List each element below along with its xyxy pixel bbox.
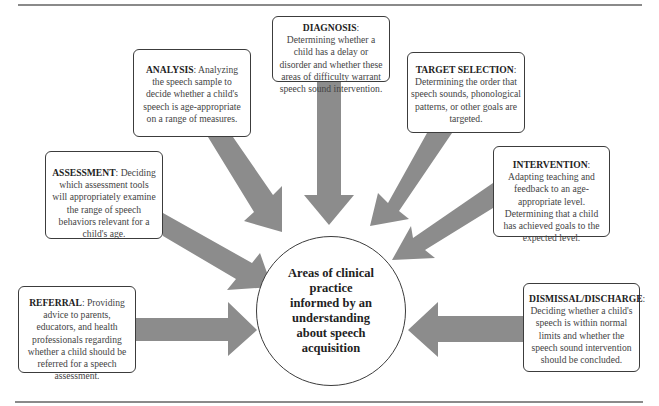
node-text: Adapting teaching and feedback to an age… [504, 171, 600, 243]
arrow-target-selection [370, 133, 452, 226]
arrow-dismissal [408, 302, 523, 357]
node-analysis: ANALYSIS: Analyzing the speech sample to… [133, 49, 251, 137]
arrow-referral [136, 302, 257, 356]
node-title: REFERRAL [29, 297, 82, 308]
node-title: ANALYSIS [146, 64, 194, 75]
node-text: Determining the order that speech sounds… [411, 76, 521, 124]
arrow-assessment [163, 213, 272, 290]
node-text: Deciding whether a child's speech is wit… [530, 305, 632, 365]
arrow-diagnosis [304, 82, 354, 225]
node-title: DISMISSAL/DISCHARGE [529, 293, 643, 304]
node-title: ASSESSMENT [52, 167, 115, 178]
node-title: INTERVENTION [513, 159, 588, 170]
node-referral: REFERRAL: Providing advice to parents, e… [18, 286, 136, 373]
node-title: TARGET SELECTION [416, 64, 514, 75]
center-circle: Areas of clinical practice informed by a… [256, 236, 406, 386]
node-intervention: INTERVENTION: Adapting teaching and feed… [493, 146, 610, 237]
node-diagnosis: DIAGNOSIS: Determining whether a child h… [272, 16, 390, 82]
arrow-analysis [208, 137, 282, 232]
node-dismissal-discharge: DISMISSAL/DISCHARGE: Deciding whether a … [523, 283, 640, 372]
center-text: Areas of clinical practice informed by a… [285, 266, 377, 356]
node-target-selection: TARGET SELECTION: Determining the order … [407, 52, 525, 133]
node-assessment: ASSESSMENT: Deciding which assessment to… [45, 151, 163, 239]
node-text: Determining whether a child has a delay … [279, 34, 382, 94]
node-title: DIAGNOSIS [303, 22, 357, 33]
node-text: Providing advice to parents, educators, … [28, 297, 127, 381]
